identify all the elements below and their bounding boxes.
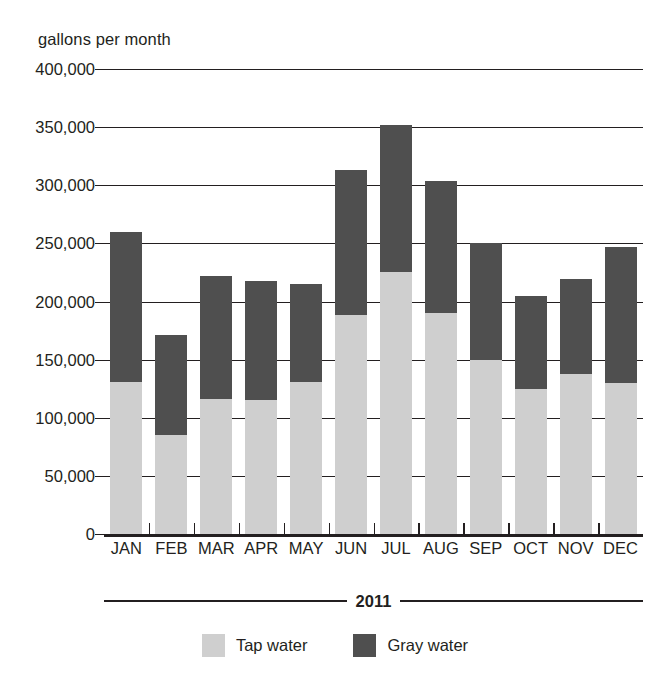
year-rule-right <box>400 600 643 603</box>
x-tick <box>374 523 376 534</box>
y-tick-50000 <box>95 476 104 477</box>
bar-feb <box>155 69 187 534</box>
bar-nov <box>560 69 592 534</box>
x-axis-label-sep: SEP <box>469 540 502 557</box>
x-axis-label-oct: OCT <box>513 540 548 557</box>
bar-segment-tap-water <box>245 400 277 534</box>
y-axis-label: 300,000 <box>9 177 95 194</box>
chart-legend: Tap waterGray water <box>0 634 670 657</box>
bar-segment-tap-water <box>515 389 547 534</box>
bar-mar <box>200 69 232 534</box>
x-tick <box>463 523 465 534</box>
bar-aug <box>425 69 457 534</box>
x-axis-label-jan: JAN <box>111 540 142 557</box>
bar-segment-gray-water <box>560 279 592 373</box>
bar-segment-tap-water <box>200 399 232 534</box>
legend-label: Gray water <box>387 637 468 654</box>
x-tick <box>329 523 331 534</box>
bar-segment-tap-water <box>335 315 367 534</box>
bar-segment-gray-water <box>110 232 142 382</box>
y-axis-label: 0 <box>9 526 95 543</box>
y-axis-label: 250,000 <box>9 235 95 252</box>
stacked-bar-chart: gallons per month 050,000100,000150,0002… <box>0 0 670 688</box>
x-tick <box>149 523 151 534</box>
y-axis-label: 350,000 <box>9 119 95 136</box>
x-axis-caption: 2011 <box>347 593 401 610</box>
bar-apr <box>245 69 277 534</box>
bar-segment-gray-water <box>380 125 412 273</box>
x-axis-label-feb: FEB <box>155 540 187 557</box>
bar-segment-tap-water <box>560 374 592 534</box>
y-tick-350000 <box>95 127 104 128</box>
y-tick-100000 <box>95 418 104 419</box>
legend-item: Gray water <box>353 634 468 657</box>
bar-segment-gray-water <box>605 247 637 383</box>
legend-item: Tap water <box>202 634 308 657</box>
bar-segment-gray-water <box>470 243 502 359</box>
y-tick-300000 <box>95 185 104 186</box>
y-tick-400000 <box>95 69 104 70</box>
bar-jun <box>335 69 367 534</box>
x-tick <box>239 523 241 534</box>
bar-segment-gray-water <box>200 276 232 399</box>
x-axis-label-nov: NOV <box>558 540 594 557</box>
bar-segment-gray-water <box>290 284 322 382</box>
x-tick <box>553 523 555 534</box>
y-tick-150000 <box>95 360 104 361</box>
y-axis-label: 100,000 <box>9 410 95 427</box>
x-axis-label-dec: DEC <box>603 540 638 557</box>
y-axis-label: 400,000 <box>9 61 95 78</box>
bar-may <box>290 69 322 534</box>
x-axis-label-aug: AUG <box>423 540 459 557</box>
x-tick <box>598 523 600 534</box>
x-axis-label-apr: APR <box>244 540 278 557</box>
bar-segment-tap-water <box>155 435 187 534</box>
x-tick <box>508 523 510 534</box>
bar-jul <box>380 69 412 534</box>
bar-series-container <box>104 69 643 534</box>
year-rule-left <box>104 600 347 603</box>
bar-segment-gray-water <box>515 296 547 389</box>
bar-segment-tap-water <box>290 382 322 534</box>
x-tick <box>418 523 420 534</box>
bar-segment-tap-water <box>425 313 457 534</box>
bar-segment-gray-water <box>245 281 277 401</box>
bar-segment-tap-water <box>470 360 502 534</box>
x-axis-label-mar: MAR <box>198 540 235 557</box>
legend-label: Tap water <box>236 637 308 654</box>
legend-swatch-icon <box>353 634 376 657</box>
y-tick-250000 <box>95 243 104 244</box>
bar-sep <box>470 69 502 534</box>
y-tick-200000 <box>95 302 104 303</box>
y-axis-caption: gallons per month <box>38 30 171 49</box>
bar-jan <box>110 69 142 534</box>
bar-segment-gray-water <box>425 181 457 314</box>
x-tick <box>284 523 286 534</box>
x-axis-label-may: MAY <box>289 540 324 557</box>
bar-segment-tap-water <box>110 382 142 534</box>
year-band: 2011 <box>104 589 643 613</box>
bar-segment-tap-water <box>605 383 637 534</box>
x-axis-label-jul: JUL <box>381 540 410 557</box>
y-axis-label: 50,000 <box>9 468 95 485</box>
y-tick-0 <box>95 534 104 535</box>
bar-segment-tap-water <box>380 272 412 534</box>
x-axis-tick-labels: JANFEBMARAPRMAYJUNJULAUGSEPOCTNOVDEC <box>104 534 643 574</box>
y-axis-tick-labels: 050,000100,000150,000200,000250,000300,0… <box>0 69 95 534</box>
bar-dec <box>605 69 637 534</box>
x-tick <box>194 523 196 534</box>
y-axis-label: 150,000 <box>9 351 95 368</box>
bar-oct <box>515 69 547 534</box>
y-axis-label: 200,000 <box>9 293 95 310</box>
bar-segment-gray-water <box>335 170 367 315</box>
legend-swatch-icon <box>202 634 225 657</box>
x-axis-label-jun: JUN <box>335 540 367 557</box>
bar-segment-gray-water <box>155 335 187 435</box>
